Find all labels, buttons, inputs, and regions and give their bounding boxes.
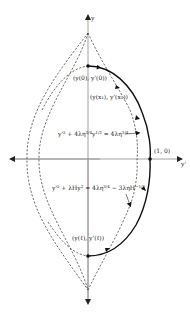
intermediate-point-label: (y(x₁), y'(x₁)) bbox=[90, 93, 128, 101]
horizontal-axis-label: y' bbox=[180, 160, 186, 168]
vertical-axis-label: y bbox=[90, 14, 95, 22]
upper-bound-equation: y'² + 4λη3/4y1/2 = 4λη3/4 bbox=[57, 130, 129, 139]
lower-equation-pointer bbox=[126, 194, 130, 205]
start-point-label: (y(0), y'(0)) bbox=[73, 74, 107, 82]
outer-dashed-left bbox=[27, 33, 88, 290]
axes: y y' bbox=[10, 14, 186, 304]
point-labels: (y(0), y'(0)) (y(x₁), y'(x₁)) (1, 0) (y(… bbox=[72, 74, 170, 242]
right-intercept-label: (1, 0) bbox=[154, 147, 170, 154]
upper-dashed-arc bbox=[42, 66, 88, 110]
dashed-bound-curves bbox=[27, 33, 137, 290]
outer-dashed-right bbox=[88, 33, 137, 290]
direction-arrow-3 bbox=[135, 115, 140, 120]
direction-arrow-2 bbox=[115, 85, 120, 89]
right-intercept-point bbox=[148, 157, 152, 161]
lower-bound-equation: y'² + λHy2 = 4λη3/4 − 3ληH−1/3 bbox=[51, 184, 145, 193]
inner-dashed-left bbox=[39, 33, 88, 290]
equation-labels: y'² + 4λη3/4y1/2 = 4λη3/4 y'² + λHy2 = 4… bbox=[51, 130, 145, 206]
end-point bbox=[86, 254, 90, 258]
start-point bbox=[86, 64, 90, 68]
phase-plane-diagram: y y' (y(0), y'(0)) (y(x₁), y'(x₁)) (1, 0… bbox=[0, 0, 190, 318]
end-point-label: (y(ℓ), y'(ℓ)) bbox=[72, 234, 104, 242]
